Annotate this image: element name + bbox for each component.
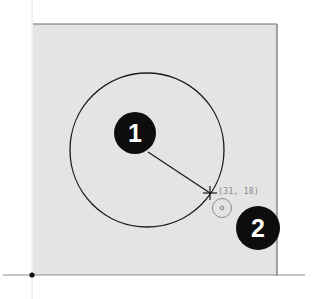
callout-1-label: 1	[128, 119, 142, 147]
callout-badge-1: 1	[114, 112, 156, 154]
cursor-coordinate-label: (31, 18)	[218, 186, 259, 196]
callout-2-label: 2	[251, 214, 265, 242]
sketch-canvas[interactable]: (31, 18) 1 2	[0, 0, 316, 299]
callout-badge-2: 2	[236, 206, 280, 250]
origin-point[interactable]	[29, 272, 34, 277]
